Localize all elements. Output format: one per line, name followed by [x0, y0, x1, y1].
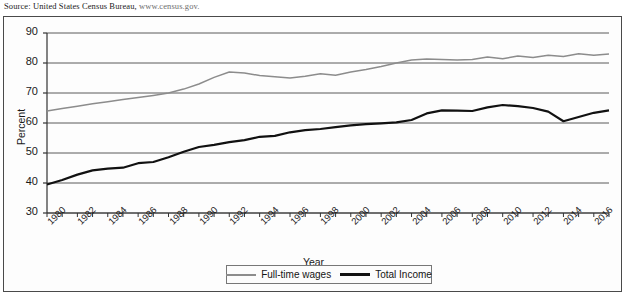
y-tick-label: 90 — [12, 25, 38, 37]
legend-item-total-income: Total Income — [340, 269, 432, 280]
chart-figure: Percent Year 30405060708090 198019821984… — [3, 16, 622, 292]
gridlines-group — [47, 33, 609, 213]
source-prefix: Source: United States Census Bureau, — [4, 1, 137, 11]
y-tick-label: 80 — [12, 55, 38, 67]
y-tick-label: 30 — [12, 205, 38, 217]
legend-label-full-time-wages: Full-time wages — [261, 269, 331, 280]
series-line-full-time-wages — [47, 54, 609, 111]
y-tick-label: 60 — [12, 115, 38, 127]
chart-legend: Full-time wages Total Income — [226, 265, 432, 284]
y-tick-label: 50 — [12, 145, 38, 157]
source-attribution: Source: United States Census Bureau, www… — [4, 1, 200, 11]
legend-swatch-income-icon — [340, 273, 370, 276]
source-url: www.census.gov. — [139, 1, 200, 11]
legend-item-full-time-wages: Full-time wages — [226, 269, 331, 280]
y-tick-label: 40 — [12, 175, 38, 187]
y-tick-label: 70 — [12, 85, 38, 97]
legend-swatch-wages-icon — [226, 274, 256, 276]
line-chart-plot — [4, 17, 623, 293]
legend-label-total-income: Total Income — [375, 269, 432, 280]
series-line-total-income — [47, 105, 609, 185]
